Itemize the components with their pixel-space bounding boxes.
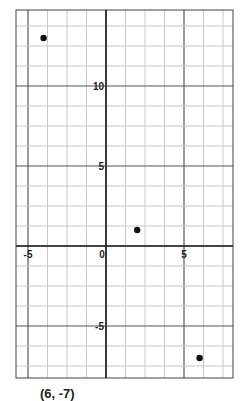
grid-lines [16, 10, 233, 378]
y-tick-label: -5 [95, 321, 104, 332]
data-point[interactable] [134, 227, 140, 233]
x-tick-label: 5 [181, 249, 187, 260]
plot-border [16, 10, 233, 378]
y-tick-label: 5 [98, 161, 104, 172]
data-point[interactable] [40, 35, 46, 41]
x-tick-label: -5 [24, 249, 33, 260]
axes [16, 10, 233, 378]
y-tick-label: 10 [93, 81, 105, 92]
data-points [40, 35, 202, 361]
x-tick-label: 0 [99, 249, 105, 260]
data-point[interactable] [196, 355, 202, 361]
point-caption: (6, -7) [40, 386, 75, 401]
